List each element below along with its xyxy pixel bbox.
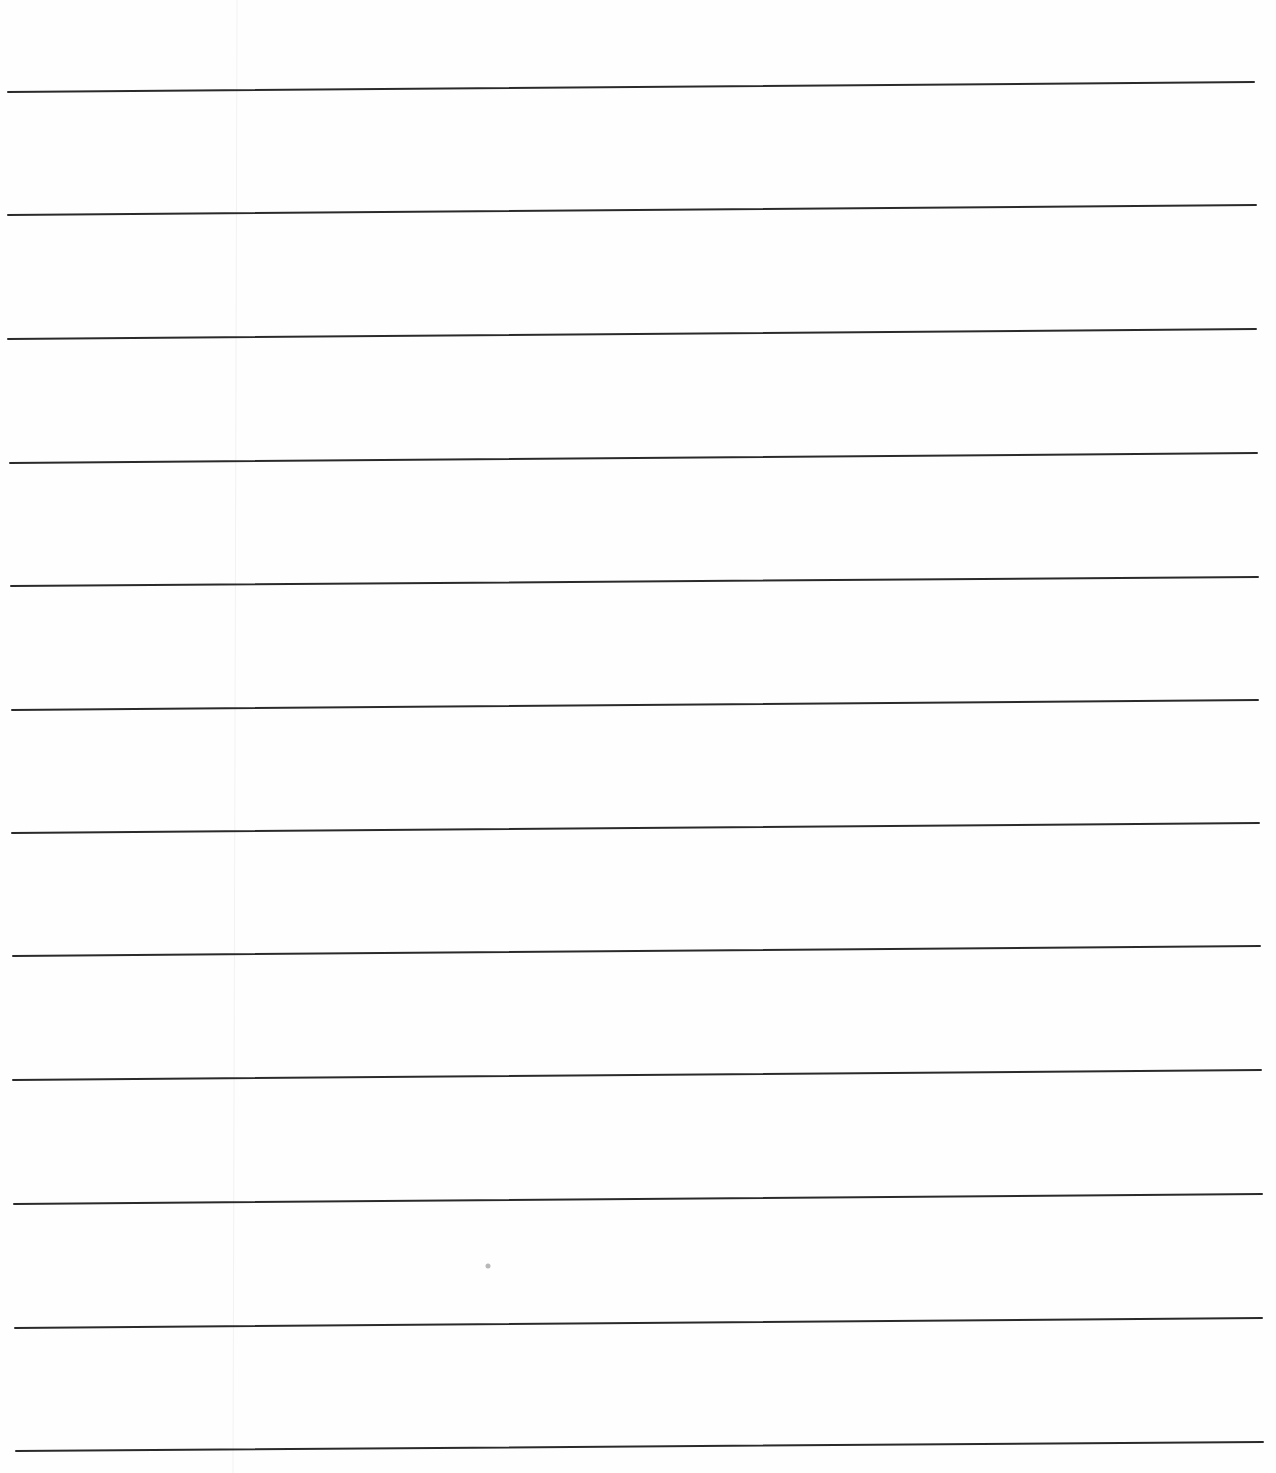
ruled-lines xyxy=(0,0,1276,1473)
ruled-line-7 xyxy=(12,823,1259,833)
ruled-line-6 xyxy=(12,700,1258,710)
ruled-line-1 xyxy=(8,82,1254,92)
ruled-line-2 xyxy=(8,205,1256,215)
ruled-line-4 xyxy=(10,453,1257,463)
ruled-line-8 xyxy=(13,946,1260,956)
scan-speck xyxy=(486,1264,491,1269)
faint-vertical-line xyxy=(233,0,237,1473)
ruled-line-9 xyxy=(13,1070,1261,1080)
lined-paper-page xyxy=(0,0,1276,1473)
ruled-line-3 xyxy=(8,329,1256,339)
ruled-line-10 xyxy=(14,1194,1262,1204)
ruled-line-12 xyxy=(16,1442,1263,1451)
ruled-line-5 xyxy=(11,577,1258,586)
ruled-line-11 xyxy=(15,1318,1262,1328)
